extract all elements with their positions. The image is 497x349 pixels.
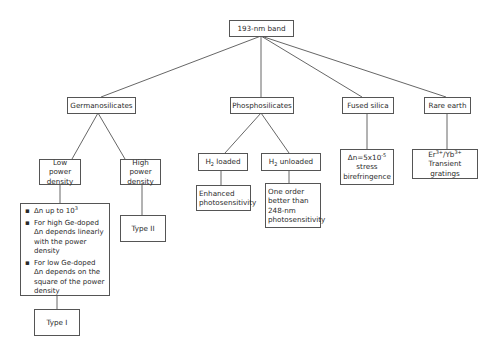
node-label: Low power density xyxy=(42,158,78,186)
bullet-text: For low Ge-doped Δn depends on the squar… xyxy=(34,259,104,295)
node-transient-gratings: Er3+/Yb3+ Transient gratings xyxy=(412,149,478,179)
root-node-193nm-band: 193-nm band xyxy=(229,20,294,37)
superscript: 3+ xyxy=(454,149,461,155)
node-fused-silica: Fused silica xyxy=(342,97,394,114)
node-label: Type II xyxy=(131,224,154,233)
node-label: H2 loaded xyxy=(205,157,240,166)
bullet-item: For high Ge-doped Δn depends linearly wi… xyxy=(25,219,106,256)
node-h2-unloaded: H2 unloaded xyxy=(261,153,321,171)
line-text: stress xyxy=(356,162,377,171)
node-low-power-density: Low power density xyxy=(39,159,81,185)
superscript: -5 xyxy=(381,152,386,158)
line-text: birefringence xyxy=(343,172,391,181)
node-label: Type I xyxy=(47,318,68,327)
node-germanosilicates: Germanosilicates xyxy=(67,97,136,114)
rest-text: loaded xyxy=(214,157,241,166)
bullet-item: Δn up to 103 xyxy=(25,207,106,216)
superscript: 3 xyxy=(75,205,78,211)
bullet-text: For high Ge-doped Δn depends linearly wi… xyxy=(34,219,104,255)
node-label: Fused silica xyxy=(347,101,388,110)
node-label: H2 unloaded xyxy=(269,157,313,166)
er-text: Er xyxy=(428,150,436,159)
bullet-text: Δn up to 10 xyxy=(34,207,75,215)
node-type-i: Type I xyxy=(34,309,80,336)
node-one-order-better: One order better than 248-nm photosensit… xyxy=(265,183,321,228)
node-type-ii: Type II xyxy=(120,215,166,242)
node-stress-birefringence: Δn=5x10-5 stress birefringence xyxy=(340,149,394,185)
bullet-item: For low Ge-doped Δn depends on the squar… xyxy=(25,259,106,296)
node-high-power-density: High power density xyxy=(120,159,161,185)
node-label: One order better than 248-nm photosensit… xyxy=(268,187,325,224)
delta-n-text: Δn=5x10 xyxy=(348,153,381,162)
node-label: Phosphosilicates xyxy=(232,101,292,110)
yb-text: /Yb xyxy=(443,150,454,159)
node-label: Germanosilicates xyxy=(70,101,132,110)
node-label: High power density xyxy=(123,158,158,186)
node-rare-earth: Rare earth xyxy=(424,97,471,114)
node-label: Δn=5x10-5 stress birefringence xyxy=(343,153,391,181)
node-label: 193-nm band xyxy=(237,24,285,33)
superscript: 3+ xyxy=(436,149,443,155)
node-low-power-details: Δn up to 103 For high Ge-doped Δn depend… xyxy=(20,203,110,296)
node-enhanced-photosensitivity: Enhanced photosensitivity xyxy=(196,185,251,211)
node-h2-loaded: H2 loaded xyxy=(198,153,248,171)
line-text: Transient gratings xyxy=(429,159,462,177)
node-phosphosilicates: Phosphosilicates xyxy=(230,97,294,114)
node-label: Rare earth xyxy=(429,101,467,110)
node-label: Er3+/Yb3+ Transient gratings xyxy=(415,150,475,178)
node-label: Enhanced photosensitivity xyxy=(199,189,256,208)
rest-text: unloaded xyxy=(277,157,313,166)
